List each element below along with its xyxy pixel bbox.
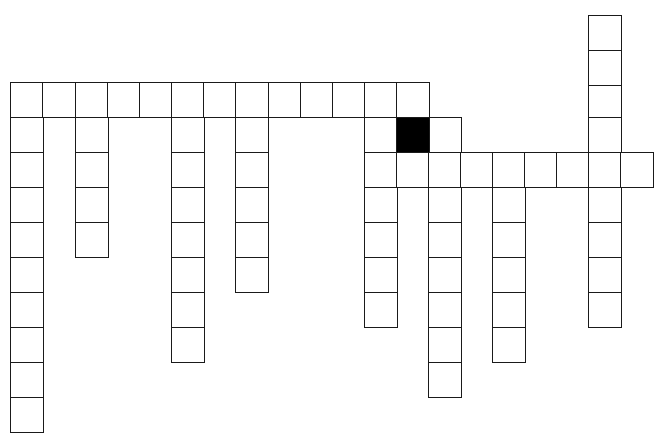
crossword-cell[interactable] bbox=[75, 152, 109, 188]
crossword-cell[interactable] bbox=[428, 222, 462, 258]
crossword-cell[interactable] bbox=[268, 82, 302, 118]
crossword-cell[interactable] bbox=[75, 117, 109, 153]
crossword-grid bbox=[0, 0, 663, 442]
crossword-cell[interactable] bbox=[75, 82, 109, 118]
crossword-cell[interactable] bbox=[235, 187, 269, 223]
crossword-cell[interactable] bbox=[235, 222, 269, 258]
crossword-cell[interactable] bbox=[620, 152, 654, 188]
crossword-cell[interactable] bbox=[171, 327, 205, 363]
crossword-cell[interactable] bbox=[428, 292, 462, 328]
crossword-cell[interactable] bbox=[588, 222, 622, 258]
crossword-cell[interactable] bbox=[139, 82, 173, 118]
crossword-cell[interactable] bbox=[364, 82, 398, 118]
crossword-cell[interactable] bbox=[492, 257, 526, 293]
crossword-cell[interactable] bbox=[428, 152, 462, 188]
crossword-cell[interactable] bbox=[364, 187, 398, 223]
crossword-cell[interactable] bbox=[588, 117, 622, 153]
crossword-cell[interactable] bbox=[396, 82, 430, 118]
crossword-cell[interactable] bbox=[235, 257, 269, 293]
crossword-cell[interactable] bbox=[171, 257, 205, 293]
crossword-cell[interactable] bbox=[10, 117, 44, 153]
blocked-cell bbox=[396, 117, 430, 153]
crossword-cell[interactable] bbox=[524, 152, 558, 188]
crossword-cell[interactable] bbox=[396, 152, 430, 188]
crossword-cell[interactable] bbox=[364, 222, 398, 258]
crossword-cell[interactable] bbox=[10, 362, 44, 398]
crossword-cell[interactable] bbox=[588, 15, 622, 51]
crossword-cell[interactable] bbox=[492, 292, 526, 328]
crossword-cell[interactable] bbox=[75, 222, 109, 258]
crossword-cell[interactable] bbox=[588, 257, 622, 293]
crossword-cell[interactable] bbox=[107, 82, 141, 118]
crossword-cell[interactable] bbox=[588, 50, 622, 86]
crossword-cell[interactable] bbox=[10, 82, 44, 118]
crossword-cell[interactable] bbox=[428, 187, 462, 223]
crossword-cell[interactable] bbox=[10, 222, 44, 258]
crossword-cell[interactable] bbox=[171, 222, 205, 258]
crossword-cell[interactable] bbox=[428, 257, 462, 293]
crossword-cell[interactable] bbox=[203, 82, 237, 118]
crossword-cell[interactable] bbox=[235, 152, 269, 188]
crossword-cell[interactable] bbox=[171, 117, 205, 153]
crossword-cell[interactable] bbox=[10, 397, 44, 433]
crossword-cell[interactable] bbox=[588, 152, 622, 188]
crossword-cell[interactable] bbox=[364, 257, 398, 293]
crossword-cell[interactable] bbox=[460, 152, 494, 188]
crossword-cell[interactable] bbox=[588, 187, 622, 223]
crossword-cell[interactable] bbox=[332, 82, 366, 118]
crossword-cell[interactable] bbox=[492, 152, 526, 188]
crossword-cell[interactable] bbox=[492, 187, 526, 223]
crossword-cell[interactable] bbox=[428, 117, 462, 153]
crossword-cell[interactable] bbox=[10, 292, 44, 328]
crossword-cell[interactable] bbox=[364, 117, 398, 153]
crossword-cell[interactable] bbox=[171, 292, 205, 328]
crossword-cell[interactable] bbox=[428, 362, 462, 398]
crossword-cell[interactable] bbox=[10, 152, 44, 188]
crossword-cell[interactable] bbox=[75, 187, 109, 223]
crossword-cell[interactable] bbox=[588, 292, 622, 328]
crossword-cell[interactable] bbox=[10, 187, 44, 223]
crossword-cell[interactable] bbox=[171, 187, 205, 223]
crossword-cell[interactable] bbox=[364, 152, 398, 188]
crossword-cell[interactable] bbox=[10, 327, 44, 363]
crossword-cell[interactable] bbox=[588, 85, 622, 121]
crossword-cell[interactable] bbox=[171, 82, 205, 118]
crossword-cell[interactable] bbox=[428, 327, 462, 363]
crossword-cell[interactable] bbox=[492, 222, 526, 258]
crossword-cell[interactable] bbox=[171, 152, 205, 188]
crossword-cell[interactable] bbox=[235, 117, 269, 153]
crossword-cell[interactable] bbox=[364, 292, 398, 328]
crossword-cell[interactable] bbox=[492, 327, 526, 363]
crossword-cell[interactable] bbox=[300, 82, 334, 118]
crossword-cell[interactable] bbox=[10, 257, 44, 293]
crossword-cell[interactable] bbox=[42, 82, 76, 118]
crossword-cell[interactable] bbox=[235, 82, 269, 118]
crossword-cell[interactable] bbox=[556, 152, 590, 188]
